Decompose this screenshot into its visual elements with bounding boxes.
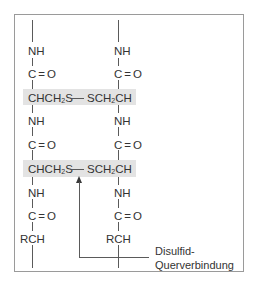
annotation-label: Disulfid- Querverbindung [155,244,234,272]
left-bond [32,222,33,231]
left-bond [32,150,33,160]
left-nh-2: NH [28,115,45,127]
left-bond [32,127,33,136]
left-bond [32,58,33,66]
left-rch: RCH [20,233,45,245]
right-co-2: C=O [114,139,142,151]
right-bond [118,58,119,66]
right-sch2ch-1: SCH2CH [87,92,132,107]
annotation-arrow-leader [79,257,149,258]
right-bond [118,150,119,160]
right-sch2ch-2: SCH2CH [87,163,132,178]
left-bond [32,199,33,208]
left-nh-1: NH [28,45,45,57]
right-co-1: C=O [114,68,142,80]
right-nh-3: NH [114,187,131,199]
right-bond [118,177,119,185]
right-co-3: C=O [114,210,142,222]
left-co-2: C=O [28,139,56,151]
left-co-3: C=O [28,210,56,222]
left-nh-3: NH [28,187,45,199]
right-nh-2: NH [114,115,131,127]
left-bond-bottom [32,245,33,268]
left-chch2s-1: CHCH2S [28,92,73,107]
left-co-1: C=O [28,68,56,80]
left-chch2s-2: CHCH2S [28,163,73,178]
right-bond [118,222,119,231]
right-rch: RCH [106,233,131,245]
right-nh-1: NH [114,45,131,57]
disulfide-bond-1 [72,98,84,99]
right-bond-top [118,20,119,42]
right-bond [118,199,119,208]
annotation-arrow-shaft [79,182,80,258]
right-bond [118,127,119,136]
left-bond [32,177,33,185]
right-bond [118,80,119,89]
left-bond [32,80,33,89]
disulfide-bond-2 [72,169,84,170]
left-bond-top [32,20,33,42]
